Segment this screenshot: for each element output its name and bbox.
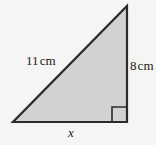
vertical-side-length-label: 8cm: [130, 59, 154, 72]
hypotenuse-value: 11: [26, 53, 39, 68]
base-length-label: x: [68, 126, 74, 139]
vertical-side-value: 8: [130, 58, 137, 73]
hypotenuse-length-label: 11cm: [26, 54, 56, 67]
hypotenuse-unit: cm: [40, 53, 56, 68]
vertical-side-unit: cm: [138, 58, 154, 73]
triangle-figure: 11cm 8cm x: [0, 0, 156, 145]
